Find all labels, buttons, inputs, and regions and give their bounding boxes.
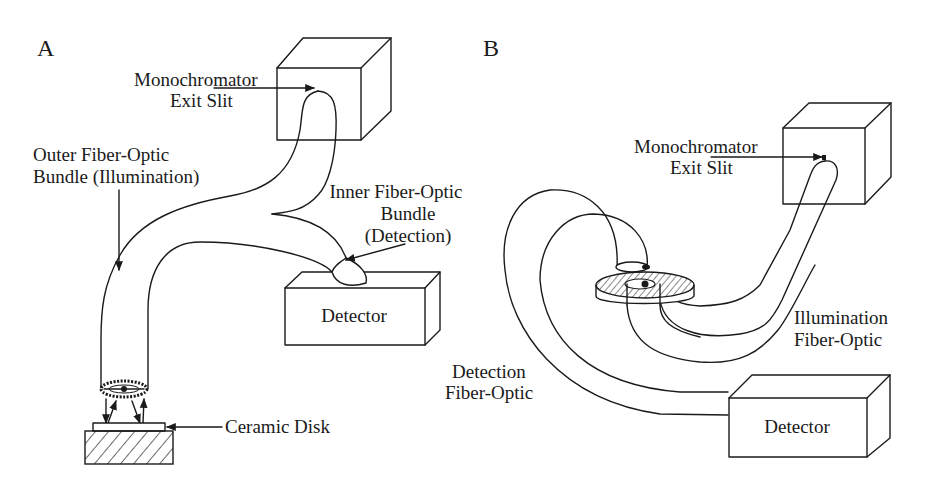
detection-fiber-label-line2: Fiber-Optic: [445, 382, 533, 403]
outer-bundle-label-line1: Outer Fiber-Optic: [33, 144, 169, 165]
monochromator-box-b: [783, 103, 891, 204]
illumination-fiber-label-line1: Illumination: [794, 307, 888, 328]
inner-bundle-pointer: [346, 244, 405, 260]
panel-a-label: A: [37, 35, 55, 61]
sample-stage: [85, 431, 173, 464]
panel-b-label: B: [483, 35, 499, 61]
monochromator-label-a-line1: Monochromator: [134, 69, 258, 90]
outer-bundle-label-line2: Bundle (Illumination): [33, 166, 199, 188]
inner-bundle-label-line1: Inner Fiber-Optic: [329, 181, 462, 202]
monochromator-label-b-line2: Exit Slit: [670, 157, 734, 178]
monochromator-box-a: [277, 38, 391, 140]
fiber-ring-end: [101, 381, 147, 397]
exit-slit-b: [822, 155, 826, 160]
inner-bundle-label-line2: Bundle: [381, 203, 436, 224]
detector-label-a: Detector: [321, 305, 387, 326]
monochromator-label-b-line1: Monochromator: [634, 136, 758, 157]
detection-fiber-label-line1: Detection: [452, 361, 526, 382]
sample-disk-b: [596, 272, 694, 305]
monochromator-label-a-line2: Exit Slit: [170, 90, 234, 111]
detection-fiber-core: [642, 265, 650, 270]
light-rays: [106, 399, 144, 423]
inner-bundle-label-line3: (Detection): [365, 225, 452, 247]
fiber-optic-setup-diagram: A A: [0, 0, 933, 486]
illumination-fiber-label-line2: Fiber-Optic: [794, 329, 882, 350]
panel-b: B: [445, 35, 891, 457]
detector-label-b: Detector: [764, 416, 830, 437]
detector-box-b: Detector: [729, 375, 890, 457]
ceramic-disk: [93, 423, 165, 431]
panel-a: A Detector: [33, 35, 463, 464]
ceramic-disk-label: Ceramic Disk: [225, 416, 331, 437]
inner-bundle-tip: [332, 258, 366, 285]
